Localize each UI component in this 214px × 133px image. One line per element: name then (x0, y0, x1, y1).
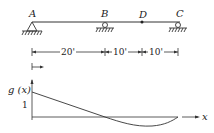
dimension-label-bd: 10' (113, 47, 127, 57)
pin-support-icon (22, 22, 42, 35)
point-label-c: C (176, 8, 184, 19)
x-direction-arrow-icon (32, 63, 44, 70)
roller-support-icon (169, 23, 187, 33)
influence-line-curve (32, 92, 178, 126)
beam-influence-diagram: A B D C (0, 0, 214, 133)
dimension-label-ab: 20' (61, 47, 75, 57)
dimension-label-dc: 10' (149, 47, 163, 57)
graph-x-label: x (202, 111, 208, 122)
graph-axes (31, 79, 201, 120)
graph-y-label: g (x) (8, 84, 31, 95)
graph-y-tick-label: 1 (22, 100, 28, 110)
point-label-d: D (138, 9, 147, 20)
point-label-a: A (28, 8, 36, 19)
point-label-b: B (100, 8, 108, 19)
roller-support-icon (96, 23, 114, 33)
point-d-marker-icon (141, 21, 144, 24)
